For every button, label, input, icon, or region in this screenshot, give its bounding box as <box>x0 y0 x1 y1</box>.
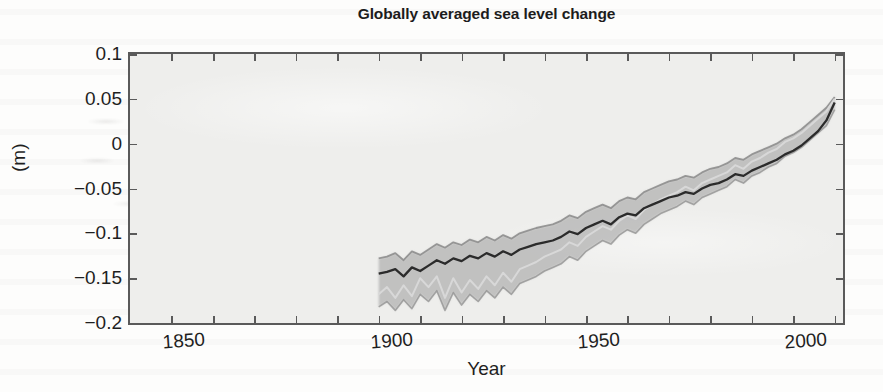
y-tick-right-0.1 <box>836 54 843 56</box>
x-tick-top-1920 <box>462 54 464 61</box>
x-tick-1870 <box>254 316 256 323</box>
y-tick-right--0.05 <box>836 189 843 191</box>
x-tick-top-1940 <box>545 54 547 61</box>
x-tick-top-1970 <box>669 54 671 61</box>
y-tick-right--0.15 <box>836 278 843 280</box>
y-tick-label-1: 0.05 <box>85 88 122 110</box>
x-tick-top-1990 <box>752 54 754 61</box>
x-tick-1900 <box>379 316 381 323</box>
x-tick-top-1850 <box>171 54 173 61</box>
x-tick-1930 <box>503 316 505 323</box>
y-tick-right--0.2 <box>836 323 843 325</box>
x-tick-1920 <box>462 316 464 323</box>
y-axis-tick-labels: 0.10.050−0.05−0.1−0.15−0.2 <box>0 52 122 325</box>
y-tick-label-4: −0.1 <box>84 222 122 244</box>
x-tick-top-1870 <box>254 54 256 61</box>
scanned-figure-page: Globally averaged sea level change 0.10.… <box>0 0 883 392</box>
x-axis-title: Year <box>128 358 845 380</box>
x-tick-top-1910 <box>420 54 422 61</box>
x-tick-1890 <box>337 316 339 323</box>
y-tick--0.1 <box>130 233 137 235</box>
x-tick-1880 <box>296 316 298 323</box>
y-tick-right-0.05 <box>836 99 843 101</box>
x-tick-top-1890 <box>337 54 339 61</box>
x-tick-top-1900 <box>379 54 381 61</box>
y-tick-label-2: 0 <box>111 133 122 155</box>
y-tick-label-3: −0.05 <box>74 178 122 200</box>
x-tick-1940 <box>545 316 547 323</box>
x-tick-1910 <box>420 316 422 323</box>
y-tick-0.1 <box>130 54 137 56</box>
x-tick-top-1930 <box>503 54 505 61</box>
y-tick-label-6: −0.2 <box>84 312 122 334</box>
y-axis-title: (m) <box>8 144 30 172</box>
x-tick-1850 <box>171 316 173 323</box>
x-tick-label-2: 1950 <box>577 329 621 354</box>
x-tick-top-1980 <box>710 54 712 61</box>
x-tick-top-2000 <box>793 54 795 61</box>
x-tick-label-0: 1850 <box>162 329 206 354</box>
x-tick-1990 <box>752 316 754 323</box>
y-tick--0.2 <box>130 323 137 325</box>
x-axis-tick-labels: 1850190019502000 <box>128 330 845 360</box>
y-tick-label-0: 0.1 <box>96 43 122 65</box>
x-tick-top-1880 <box>296 54 298 61</box>
plot-area <box>128 52 845 325</box>
y-tick-right-0 <box>836 144 843 146</box>
x-tick-label-3: 2000 <box>784 329 828 354</box>
x-tick-1960 <box>627 316 629 323</box>
y-tick-0.05 <box>130 99 137 101</box>
x-tick-label-1: 1900 <box>370 329 414 354</box>
y-tick-right--0.1 <box>836 233 843 235</box>
sea-level-series-layer <box>130 54 843 323</box>
chart-title: Globally averaged sea level change <box>128 5 845 23</box>
x-tick-2000 <box>793 316 795 323</box>
x-tick-1860 <box>213 316 215 323</box>
x-tick-1970 <box>669 316 671 323</box>
y-tick--0.15 <box>130 278 137 280</box>
uncertainty-band <box>379 97 835 310</box>
y-tick--0.05 <box>130 189 137 191</box>
x-tick-1980 <box>710 316 712 323</box>
x-tick-1950 <box>586 316 588 323</box>
y-tick-0 <box>130 144 137 146</box>
x-tick-top-1950 <box>586 54 588 61</box>
x-tick-top-1860 <box>213 54 215 61</box>
x-tick-top-1960 <box>627 54 629 61</box>
x-tick-2010 <box>835 316 837 323</box>
y-tick-label-5: −0.15 <box>74 267 122 289</box>
